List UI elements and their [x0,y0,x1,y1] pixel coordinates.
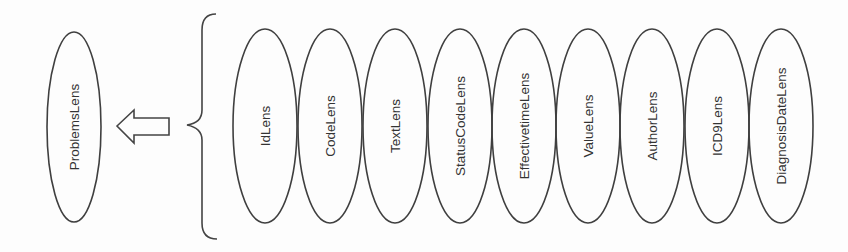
component-lens-node: IdLens [233,29,297,223]
component-lens-node: AuthorLens [620,29,684,223]
component-lens-node: DiagnosisDateLens [749,29,813,223]
component-lens-label: AuthorLens [645,91,660,160]
component-lens-node: TextLens [363,29,427,223]
component-lens-label: TextLens [388,99,403,153]
component-lens-label: ValueLens [581,94,596,157]
component-lens-node: ICD9Lens [685,29,749,223]
curly-brace-icon [187,14,217,239]
hollow-left-arrow-icon [117,110,169,143]
problems-lens-label: ProblemsLens [67,84,82,171]
lens-composition-diagram: ProblemsLens IdLens CodeLens TextLens St… [0,0,848,252]
component-lens-node: StatusCodeLens [428,29,492,223]
component-lens-node: CodeLens [298,29,362,223]
component-lens-group: IdLens CodeLens TextLens StatusCodeLens … [233,29,813,223]
component-lens-label: IdLens [258,105,273,146]
component-lens-label: EffectivetimeLens [517,73,532,180]
component-lens-label: CodeLens [323,95,338,157]
component-lens-label: ICD9Lens [710,96,725,156]
component-lens-node: ValueLens [556,29,620,223]
component-lens-label: DiagnosisDateLens [774,67,789,184]
problems-lens-node: ProblemsLens [47,32,101,222]
component-lens-node: EffectivetimeLens [492,29,556,223]
component-lens-label: StatusCodeLens [453,76,468,176]
